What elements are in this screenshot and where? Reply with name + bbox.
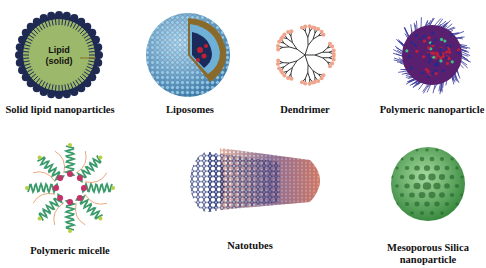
polymeric-nanoparticle-icon bbox=[378, 0, 486, 100]
liposome-label: Liposomes bbox=[140, 104, 240, 116]
nanotubes-label: Natotubes bbox=[200, 240, 300, 252]
mesoporous-silica-nanoparticle: Mesoporous Silica nanoparticle bbox=[370, 140, 486, 268]
nanotube-icon bbox=[180, 140, 330, 220]
solid-lipid-nanoparticle: Lipid (solid) Solid lipid nanoparticles bbox=[0, 0, 120, 115]
nanotubes: Natotubes bbox=[180, 140, 330, 260]
polymeric-nanoparticle: Polymeric nanoparticle bbox=[378, 0, 486, 115]
polymeric-micelle-label: Polymeric micelle bbox=[20, 245, 120, 257]
mesoporous-silica-label-line2: nanoparticle bbox=[370, 254, 486, 266]
liposome: Liposomes bbox=[140, 0, 240, 115]
mesoporous-silica-label-line1: Mesoporous Silica bbox=[370, 242, 486, 254]
dendrimer: Dendrimer bbox=[255, 0, 355, 115]
dendrimer-icon bbox=[255, 0, 355, 100]
polymeric-micelle: Polymeric micelle bbox=[20, 140, 120, 260]
solid-lipid-label: Solid lipid nanoparticles bbox=[4, 104, 116, 116]
polymeric-nanoparticle-label: Polymeric nanoparticle bbox=[378, 104, 486, 116]
mesoporous-silica-icon bbox=[370, 140, 486, 230]
liposome-icon bbox=[140, 0, 240, 100]
solid-core-label: (solid) bbox=[41, 55, 77, 67]
dendrimer-label: Dendrimer bbox=[255, 104, 355, 116]
polymeric-micelle-icon bbox=[20, 140, 120, 240]
